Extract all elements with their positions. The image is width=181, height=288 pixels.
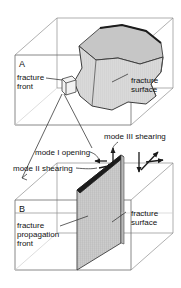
panel-b-propagation-front-label-2: propagation <box>17 230 59 239</box>
panel-a-fracture-surface-label-1: fracture <box>131 76 159 85</box>
panel-b-fracture-surface-label-1: fracture <box>131 209 159 218</box>
panel-a-fracture-surface <box>74 25 163 110</box>
panel-b-propagation-front-label-1: fracture <box>17 221 45 230</box>
panel-a-fracture-front-leader <box>46 78 62 80</box>
mode-ii-leader <box>76 168 97 169</box>
panel-a-edge-bl <box>15 88 57 125</box>
mode-ii-label: mode II shearing <box>13 164 73 173</box>
panel-a-fracture-front-cube <box>62 76 76 95</box>
cube-leader-arrowhead <box>22 174 27 180</box>
panel-b-fracture-surface-label-2: surface <box>131 218 158 227</box>
mode-i-label: mode I opening <box>35 148 90 157</box>
mode-iii-label: mode III shearing <box>104 132 166 141</box>
panel-b-letter: B <box>19 204 25 214</box>
mode-i-leader <box>90 152 99 160</box>
panel-a-letter: A <box>19 59 25 69</box>
fracture-plane-side <box>121 155 124 244</box>
cube-body <box>62 76 76 95</box>
panel-b-edge-tr <box>131 163 173 200</box>
panel-a-fracture-front-label-2: front <box>17 82 34 91</box>
panel-b-propagation-front-label-3: front <box>17 239 34 248</box>
panel-a-fracture-surface-label-2: surface <box>131 85 158 94</box>
panel-b-edge-br <box>131 233 173 270</box>
panel-a-fracture-front-label-1: fracture <box>17 73 45 82</box>
panel-a-edge-tl <box>15 18 57 55</box>
mode-iii-arrow-right <box>146 160 163 162</box>
diagram-canvas: A fracture front fracture surface <box>0 0 181 288</box>
fracture-modes-figure: A fracture front fracture surface <box>0 0 181 288</box>
